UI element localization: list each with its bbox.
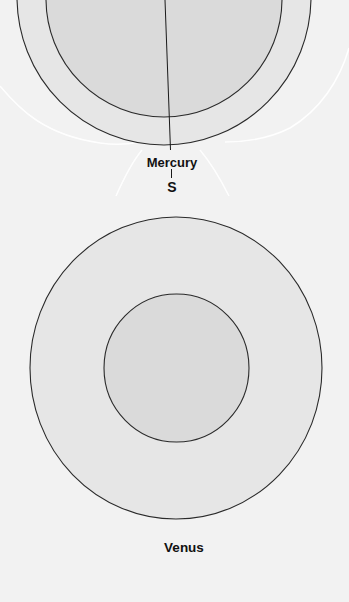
mercury-label: Mercury [147, 156, 198, 169]
diagram-canvas: Mercury S Venus [0, 0, 349, 602]
venus-label: Venus [164, 541, 204, 555]
venus-core [104, 294, 249, 442]
planet-interiors-diagram [0, 0, 349, 602]
south-pole-label: S [167, 180, 176, 194]
mercury-planet [17, 0, 311, 178]
field-line-lower-right [200, 150, 229, 196]
venus-planet [30, 217, 322, 519]
field-line-lower-left [116, 150, 142, 196]
